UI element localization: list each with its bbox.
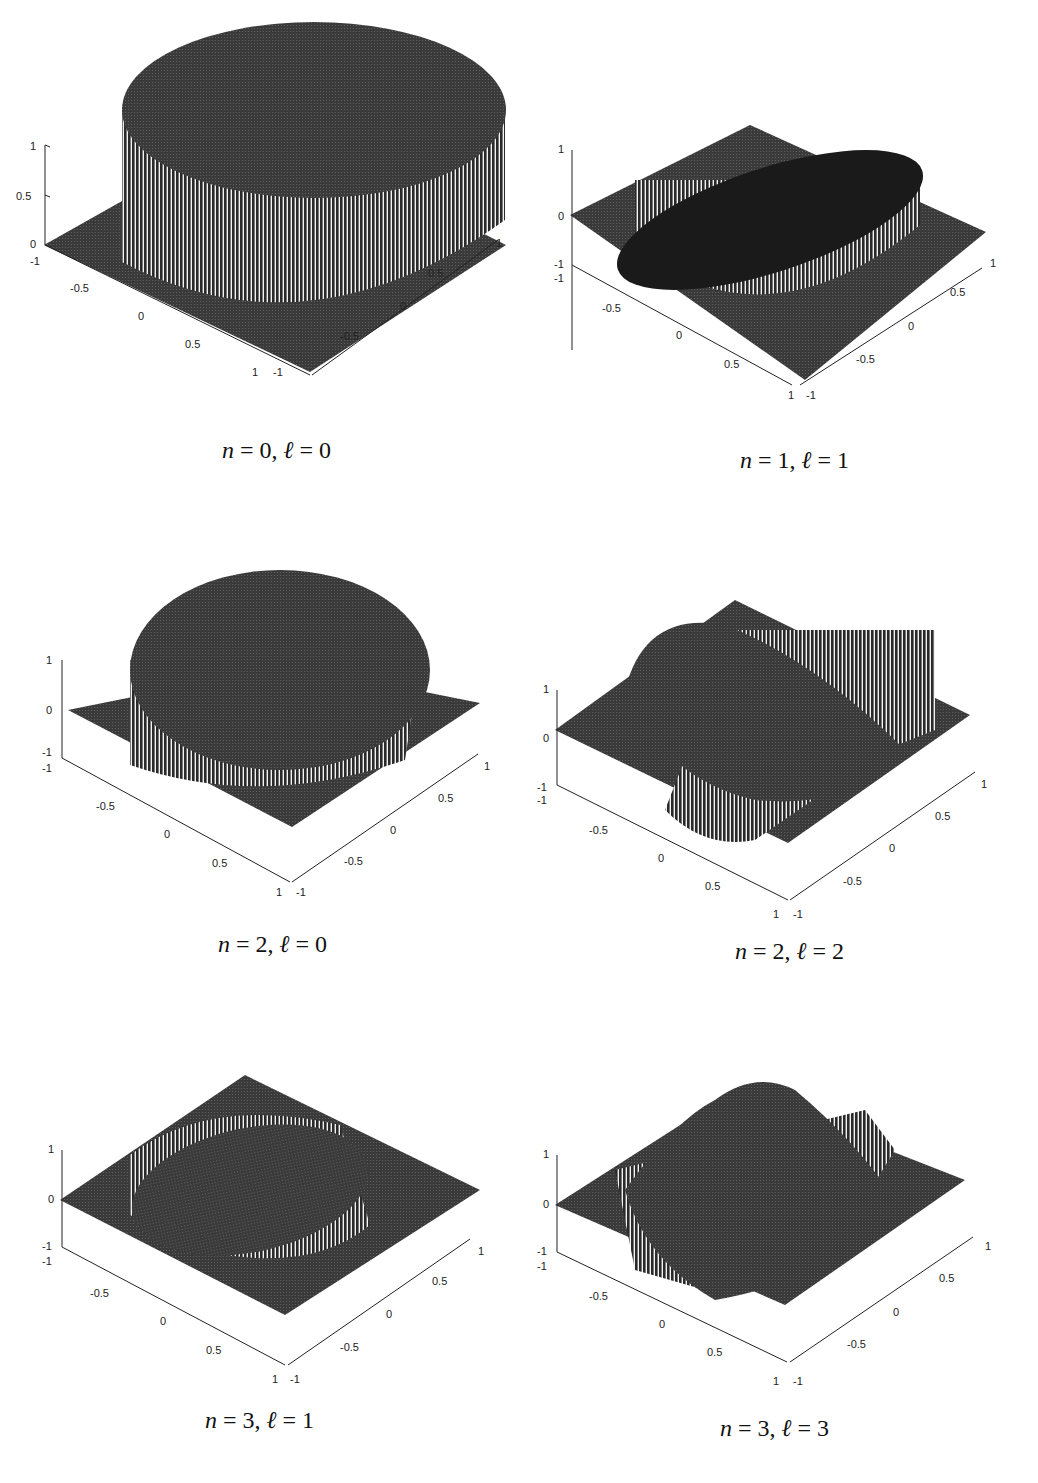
z-tick: 0 xyxy=(558,210,564,222)
y-tick: 1 xyxy=(484,760,490,772)
z-tick: 1 xyxy=(543,683,549,695)
x-tick: -1 xyxy=(30,255,40,267)
z-tick: 0 xyxy=(543,1198,549,1210)
z-tick: 0 xyxy=(30,238,36,250)
x-tick: -1 xyxy=(42,1255,52,1267)
surface-plot: 1 0.5 0 -1 -0.5 0 0.5 1 -1 -0.5 0 0.5 1 xyxy=(40,0,540,420)
z-tick: 1 xyxy=(543,1148,549,1160)
y-tick: 0.5 xyxy=(438,792,453,804)
y-tick: 0.5 xyxy=(432,1275,447,1287)
z-tick: -1 xyxy=(42,1240,52,1252)
x-tick: -0.5 xyxy=(589,1290,608,1302)
y-tick: -1 xyxy=(273,366,283,378)
x-tick: 0.5 xyxy=(206,1344,221,1356)
y-tick: -1 xyxy=(806,389,816,401)
x-tick: 0 xyxy=(164,828,170,840)
y-tick: 0 xyxy=(908,320,914,332)
x-tick: -0.5 xyxy=(602,302,621,314)
x-tick: 1 xyxy=(788,389,794,401)
x-tick: -0.5 xyxy=(70,282,89,294)
x-tick: -0.5 xyxy=(90,1287,109,1299)
x-tick: 1 xyxy=(252,366,258,378)
y-tick: 1 xyxy=(478,1245,484,1257)
x-tick: 0.5 xyxy=(185,338,200,350)
z-tick: 1 xyxy=(558,143,564,155)
x-tick: -1 xyxy=(42,762,52,774)
z-tick: 0 xyxy=(48,1193,54,1205)
x-tick: 0.5 xyxy=(705,880,720,892)
y-tick: 0.5 xyxy=(935,810,950,822)
plot-panel-n0-l0: 1 0.5 0 -1 -0.5 0 0.5 1 -1 -0.5 0 0.5 1 xyxy=(40,0,540,440)
y-tick: 0 xyxy=(386,1308,392,1320)
y-tick: -0.5 xyxy=(340,1341,359,1353)
z-tick: 1 xyxy=(30,140,36,152)
y-tick: 0.5 xyxy=(428,267,443,279)
z-tick: 1 xyxy=(48,1143,54,1155)
y-tick: -1 xyxy=(793,908,803,920)
y-tick: 1 xyxy=(985,1240,991,1252)
y-tick: 0 xyxy=(400,300,406,312)
y-tick: 1 xyxy=(981,778,987,790)
z-tick: -1 xyxy=(42,746,52,758)
caption-n3-l3: n = 3, ℓ = 3 xyxy=(720,1415,829,1442)
plot-panel-n2-l0: 1 0 -1 -1 -0.5 0 0.5 1 -1 -0.5 0 0.5 1 xyxy=(60,520,560,960)
z-tick: 0 xyxy=(543,732,549,744)
caption-n0-l0: n = 0, ℓ = 0 xyxy=(222,437,331,464)
y-tick: 1 xyxy=(496,237,502,249)
z-tick: -1 xyxy=(554,258,564,270)
x-tick: 0 xyxy=(676,329,682,341)
x-tick: 1 xyxy=(272,1373,278,1385)
caption-n1-l1: n = 1, ℓ = 1 xyxy=(740,447,849,474)
z-tick: 1 xyxy=(46,654,52,666)
surface-plot: 1 0 -1 -1 -0.5 0 0.5 1 -1 -0.5 0 0.5 1 xyxy=(555,600,1015,920)
y-tick: -0.5 xyxy=(847,1338,866,1350)
x-tick: 1 xyxy=(773,908,779,920)
y-tick: -0.5 xyxy=(856,353,875,365)
cylinder-top xyxy=(122,22,506,198)
y-tick: -1 xyxy=(296,886,306,898)
y-tick: -1 xyxy=(290,1373,300,1385)
z-tick: -1 xyxy=(537,781,547,793)
z-tick: 0.5 xyxy=(16,190,31,202)
x-tick: 1 xyxy=(773,1375,779,1387)
z-tick: -1 xyxy=(537,1245,547,1257)
z-tick: 0 xyxy=(46,704,52,716)
x-tick: 0.5 xyxy=(212,857,227,869)
x-tick: 0.5 xyxy=(707,1346,722,1358)
surface-plot: 1 0 -1 -1 -0.5 0 0.5 1 -1 -0.5 0 0.5 1 xyxy=(60,1075,520,1395)
caption-n2-l2: n = 2, ℓ = 2 xyxy=(735,938,844,965)
plot-panel-n2-l2: 1 0 -1 -1 -0.5 0 0.5 1 -1 -0.5 0 0.5 1 xyxy=(555,600,1038,1040)
y-tick: -0.5 xyxy=(340,330,359,342)
y-tick: 0.5 xyxy=(939,1272,954,1284)
y-tick: 0 xyxy=(889,842,895,854)
x-tick: 0.5 xyxy=(724,358,739,370)
x-tick: 0 xyxy=(658,852,664,864)
y-tick: 0 xyxy=(390,824,396,836)
caption-n3-l1: n = 3, ℓ = 1 xyxy=(205,1407,314,1434)
x-tick: 1 xyxy=(276,886,282,898)
x-tick: -0.5 xyxy=(589,824,608,836)
plot-panel-n1-l1: 1 0 -1 -1 -0.5 0 0.5 1 -1 -0.5 0 0.5 1 xyxy=(570,150,1038,590)
x-tick: 0 xyxy=(160,1315,166,1327)
x-tick: -1 xyxy=(537,794,547,806)
surface-plot: 1 0 -1 -1 -0.5 0 0.5 1 -1 -0.5 0 0.5 1 xyxy=(60,520,520,920)
y-tick: -0.5 xyxy=(843,875,862,887)
x-tick: -1 xyxy=(554,272,564,284)
x-tick: -0.5 xyxy=(96,800,115,812)
y-tick: 0.5 xyxy=(950,286,965,298)
x-tick: 0 xyxy=(659,1318,665,1330)
x-tick: 0 xyxy=(138,310,144,322)
surface-plot: 1 0 -1 -1 -0.5 0 0.5 1 -1 -0.5 0 0.5 1 xyxy=(555,1080,1015,1400)
caption-n2-l0: n = 2, ℓ = 0 xyxy=(218,931,327,958)
y-tick: -0.5 xyxy=(344,855,363,867)
surface-plot: 1 0 -1 -1 -0.5 0 0.5 1 -1 -0.5 0 0.5 1 xyxy=(570,150,1030,410)
y-tick: 0 xyxy=(893,1306,899,1318)
x-tick: -1 xyxy=(537,1260,547,1272)
y-tick: 1 xyxy=(990,257,996,269)
y-tick: -1 xyxy=(793,1375,803,1387)
